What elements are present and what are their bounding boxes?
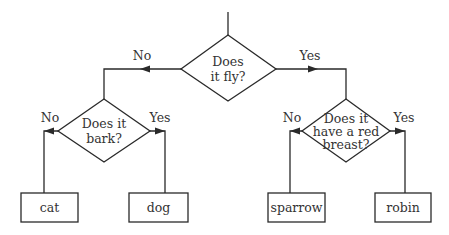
decision-does-it-fly: Does it fly?	[181, 35, 276, 101]
leaf-cat: cat	[21, 193, 78, 222]
arrow-left-icon	[44, 128, 54, 135]
question-line-1: Does	[212, 54, 243, 69]
leaf-label: cat	[40, 200, 59, 215]
edge-fly-no: No	[104, 48, 181, 99]
decision-does-it-bark: Does it bark?	[58, 99, 150, 162]
arrow-right-icon	[395, 128, 405, 135]
arrow-left-icon	[140, 66, 150, 73]
decision-red-breast: Does it have a red breast?	[302, 99, 390, 162]
edge-label-no: No	[283, 110, 301, 125]
arrow-right-icon	[155, 128, 165, 135]
question-line-1: Does it	[82, 116, 126, 131]
leaf-dog: dog	[129, 193, 188, 222]
edge-label-yes: Yes	[393, 110, 415, 125]
edge-breast-yes: Yes	[390, 110, 414, 193]
edge-bark-no: No	[41, 110, 59, 193]
leaf-robin: robin	[375, 193, 431, 222]
arrow-right-icon	[308, 66, 318, 73]
question-line-3: breast?	[323, 137, 370, 152]
edge-fly-yes: Yes	[276, 48, 346, 99]
edge-label-yes: Yes	[299, 48, 321, 63]
decision-tree-diagram: Does it fly? No Yes Does it bark? No Yes…	[0, 0, 449, 235]
edge-bark-yes: Yes	[149, 110, 171, 193]
leaf-label: sparrow	[270, 200, 322, 215]
question-line-2: bark?	[86, 131, 122, 146]
question-line-2: it fly?	[210, 69, 245, 84]
edge-label-no: No	[41, 110, 59, 125]
edge-breast-no: No	[283, 110, 302, 193]
arrow-left-icon	[290, 128, 300, 135]
leaf-label: robin	[386, 200, 420, 215]
leaf-sparrow: sparrow	[268, 193, 325, 222]
edge-label-no: No	[133, 48, 151, 63]
edge-label-yes: Yes	[149, 110, 171, 125]
leaf-label: dog	[147, 200, 171, 215]
